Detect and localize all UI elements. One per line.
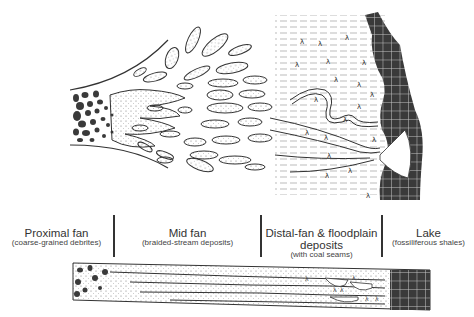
svg-text:λ: λ bbox=[300, 38, 304, 46]
plan-view: λλλ λλλ λλλ λλλ λλλ λλλ λ bbox=[70, 12, 423, 200]
svg-text:λ: λ bbox=[343, 116, 347, 124]
svg-text:λ: λ bbox=[345, 34, 349, 42]
zone-subtitle: (fossiliferous shales) bbox=[383, 239, 474, 247]
svg-text:λ: λ bbox=[326, 58, 330, 66]
zone-label-lake: Lake (fossiliferous shales) bbox=[383, 227, 474, 247]
svg-text:λ: λ bbox=[333, 286, 337, 293]
svg-text:λ: λ bbox=[357, 81, 361, 89]
zone-label-proximal: Proximal fan (coarse-grained debrites) bbox=[0, 227, 113, 247]
svg-text:λ: λ bbox=[375, 295, 379, 302]
cross-section: λλ λλ λλ bbox=[73, 263, 430, 310]
svg-text:λ: λ bbox=[362, 59, 366, 67]
svg-text:λ: λ bbox=[370, 91, 374, 99]
zone-title: Distal-fan & floodplain bbox=[262, 227, 381, 239]
svg-text:λ: λ bbox=[334, 76, 338, 84]
svg-text:λ: λ bbox=[365, 295, 369, 302]
svg-text:λ: λ bbox=[295, 61, 299, 69]
svg-text:λ: λ bbox=[352, 274, 356, 281]
svg-text:λ: λ bbox=[327, 152, 331, 160]
svg-text:λ: λ bbox=[340, 286, 344, 293]
svg-text:λ: λ bbox=[357, 103, 361, 111]
zone-subtitle: (with coal seams) bbox=[262, 251, 381, 259]
sand-lobe bbox=[110, 90, 185, 148]
zone-subtitle: (braided-stream deposits) bbox=[115, 239, 260, 247]
svg-text:λ: λ bbox=[318, 40, 322, 48]
floodplain bbox=[275, 15, 385, 195]
zone-label-distal: Distal-fan & floodplain deposits (with c… bbox=[262, 227, 381, 260]
proximal-boulders bbox=[73, 91, 114, 143]
svg-text:λ: λ bbox=[348, 167, 352, 175]
zone-label-mid: Mid fan (braided-stream deposits) bbox=[115, 227, 260, 247]
svg-text:λ: λ bbox=[305, 129, 309, 137]
fan-depositional-diagram: λλλ λλλ λλλ λλλ λλλ λλλ λ bbox=[0, 0, 474, 317]
svg-text:λ: λ bbox=[372, 136, 376, 144]
svg-text:λ: λ bbox=[314, 96, 318, 104]
svg-text:λ: λ bbox=[305, 275, 309, 282]
zone-subtitle: (coarse-grained debrites) bbox=[0, 239, 113, 247]
svg-text:λ: λ bbox=[325, 172, 329, 180]
svg-text:λ: λ bbox=[324, 134, 328, 142]
svg-text:λ: λ bbox=[366, 192, 370, 200]
